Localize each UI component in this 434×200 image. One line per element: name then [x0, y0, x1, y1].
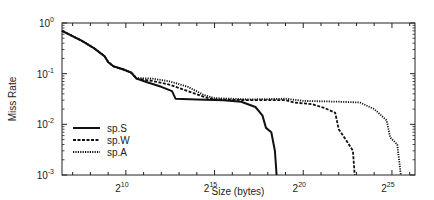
y-tick-label: 10-3 — [37, 168, 54, 181]
y-tick-label: 10-2 — [37, 117, 54, 130]
legend-label: sp.W — [107, 135, 130, 146]
legend: sp.Ssp.Wsp.A — [73, 123, 130, 158]
series-sp-w — [62, 31, 355, 175]
legend-label: sp.A — [107, 147, 127, 158]
y-tick-label: 100 — [39, 16, 54, 29]
series-sp-s — [62, 31, 277, 175]
miss-rate-chart: 10010-110-210-3 210215220225 sp.Ssp.Wsp.… — [0, 0, 434, 200]
x-axis: 210215220225 — [73, 23, 410, 194]
x-tick-label: 220 — [293, 181, 306, 194]
x-tick-label: 225 — [381, 181, 394, 194]
y-axis-label: Miss Rate — [7, 76, 18, 121]
x-tick-label: 210 — [115, 181, 128, 194]
y-tick-label: 10-1 — [37, 67, 54, 80]
x-axis-label: Size (bytes) — [212, 186, 265, 197]
legend-label: sp.S — [107, 123, 127, 134]
